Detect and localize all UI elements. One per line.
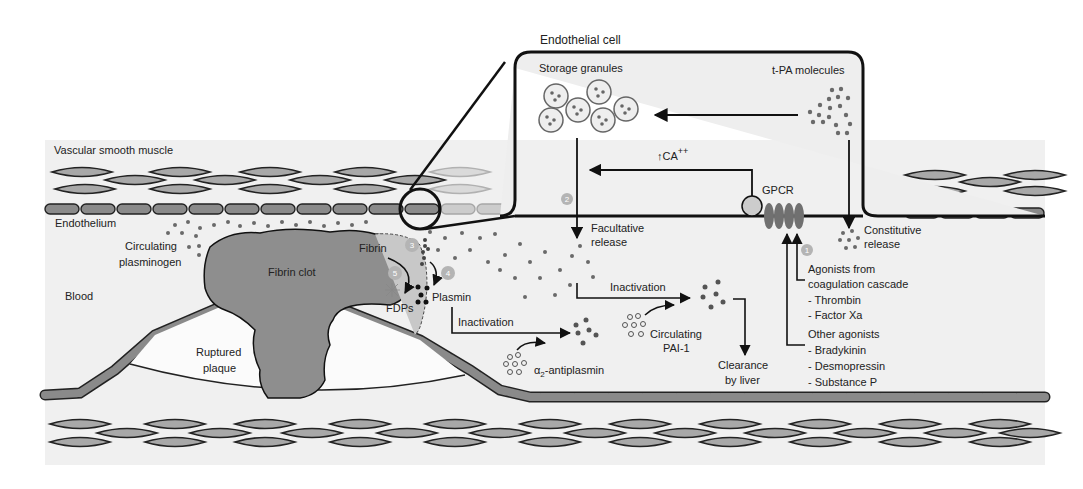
endothelium-label: Endothelium bbox=[55, 217, 116, 229]
svg-text:plaque: plaque bbox=[203, 362, 236, 374]
ruptured-plaque-label: Ruptured bbox=[196, 346, 241, 358]
storage-granules-label: Storage granules bbox=[539, 62, 623, 74]
svg-text:release: release bbox=[864, 238, 900, 250]
svg-text:- Substance P: - Substance P bbox=[808, 376, 877, 388]
blood-label: Blood bbox=[65, 290, 93, 302]
svg-text:Agonists from: Agonists from bbox=[808, 263, 875, 275]
svg-text:by liver: by liver bbox=[725, 374, 760, 386]
vascular-smooth-muscle-label: Vascular smooth muscle bbox=[54, 144, 173, 156]
inactivation-lower-label: Inactivation bbox=[458, 316, 514, 328]
fibrin-label: Fibrin bbox=[359, 242, 387, 254]
constitutive-release-label: Constitutive bbox=[864, 224, 921, 236]
svg-text:plasminogen: plasminogen bbox=[119, 256, 181, 268]
svg-text:- Factor Xa: - Factor Xa bbox=[808, 309, 863, 321]
fibrinolysis-diagram: Endothelial cell Storage granules t-PA m… bbox=[0, 0, 1083, 489]
g-protein-icon bbox=[742, 196, 762, 216]
svg-text:coagulation cascade: coagulation cascade bbox=[808, 278, 908, 290]
svg-text:- Desmopressin: - Desmopressin bbox=[808, 360, 885, 372]
plasmin-label: Plasmin bbox=[432, 291, 471, 303]
svg-text:PAI-1: PAI-1 bbox=[663, 342, 690, 354]
svg-text:- Thrombin: - Thrombin bbox=[808, 294, 861, 306]
svg-text:- Bradykinin: - Bradykinin bbox=[808, 344, 866, 356]
svg-text:4: 4 bbox=[446, 269, 451, 278]
tpa-molecules-label: t-PA molecules bbox=[772, 64, 845, 76]
circulating-plasminogen-label: Circulating bbox=[125, 240, 177, 252]
gpcr-label: GPCR bbox=[762, 184, 794, 196]
svg-text:5: 5 bbox=[393, 269, 398, 278]
fibrin-clot-label: Fibrin clot bbox=[268, 266, 316, 278]
facultative-release-label: Facultative bbox=[591, 222, 644, 234]
clearance-label: Clearance bbox=[718, 359, 768, 371]
fdps-label: FDPs bbox=[386, 302, 414, 314]
svg-text:3: 3 bbox=[410, 241, 415, 250]
svg-text:1: 1 bbox=[805, 246, 810, 255]
svg-text:2: 2 bbox=[565, 195, 570, 204]
circulating-pai1-label: Circulating bbox=[650, 328, 702, 340]
inactivation-upper-label: Inactivation bbox=[610, 281, 666, 293]
svg-text:Other agonists: Other agonists bbox=[808, 328, 880, 340]
svg-text:release: release bbox=[591, 236, 627, 248]
endothelial-cell-title: Endothelial cell bbox=[540, 33, 621, 47]
